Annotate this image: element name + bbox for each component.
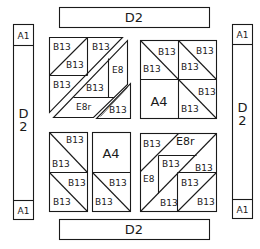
piece-label: B13 xyxy=(66,60,84,70)
block-top-right: B13 B13 B13 B13 A4 B13 B13 xyxy=(141,41,217,119)
block-top-left: B13 B13 B13 B13 E8 B13 E8r B13 xyxy=(50,38,131,119)
piece-label: B13 xyxy=(195,163,213,173)
piece-label: B13 xyxy=(160,198,178,208)
piece-label: B13 xyxy=(196,46,214,56)
piece-label: B13 xyxy=(66,135,84,145)
piece-label: B13 xyxy=(198,87,216,97)
right-border-strip: A1 D 2 A1 xyxy=(233,25,253,219)
piece-label: E8 xyxy=(112,65,124,75)
piece-label: B13 xyxy=(197,197,215,207)
right-top-corner-label: A1 xyxy=(237,30,249,40)
piece-label: B13 xyxy=(92,42,110,52)
piece-label: B13 xyxy=(143,139,161,149)
piece-label: B13 xyxy=(158,47,176,57)
right-bottom-corner-label: A1 xyxy=(237,205,249,215)
piece-label: B13 xyxy=(53,80,71,90)
piece-label: B13 xyxy=(68,178,86,188)
left-bottom-corner-label: A1 xyxy=(18,206,30,216)
piece-label: B13 xyxy=(52,159,70,169)
left-border-label-2: 2 xyxy=(19,119,27,134)
piece-label: A4 xyxy=(102,146,119,161)
piece-label: B13 xyxy=(53,42,71,52)
piece-label: B13 xyxy=(86,83,104,93)
piece-label: B13 xyxy=(181,104,199,114)
piece-label: B13 xyxy=(109,178,127,188)
left-border-strip: A1 D 2 A1 xyxy=(14,25,34,220)
bottom-border-label: D2 xyxy=(125,222,143,237)
piece-label: B13 xyxy=(181,178,199,188)
left-top-corner-label: A1 xyxy=(18,31,30,41)
piece-label: B13 xyxy=(53,197,71,207)
piece-label: E8r xyxy=(176,135,195,148)
piece-label: B13 xyxy=(109,105,127,115)
right-border-label-2: 2 xyxy=(238,113,246,128)
quilt-diagram: D2 D2 A1 D 2 A1 A1 D 2 A1 xyxy=(0,0,260,249)
top-border-strip: D2 xyxy=(60,8,210,28)
piece-label: B13 xyxy=(95,197,113,207)
top-border-label: D2 xyxy=(125,10,143,25)
piece-label: E8r xyxy=(76,102,91,112)
block-bottom-right: B13 E8r B13 B13 E8 B13 B13 B13 xyxy=(141,134,217,212)
piece-label: A4 xyxy=(150,94,167,109)
piece-label: B13 xyxy=(143,64,161,74)
piece-label: B13 xyxy=(181,62,199,72)
piece-label: E8 xyxy=(143,174,155,184)
piece-label: B13 xyxy=(162,159,180,169)
block-bottom-left: B13 B13 A4 B13 B13 B13 B13 xyxy=(50,133,131,212)
bottom-border-strip: D2 xyxy=(60,220,210,240)
